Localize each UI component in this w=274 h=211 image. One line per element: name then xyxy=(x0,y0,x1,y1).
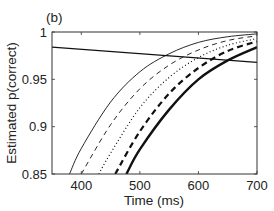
chart: (b) 400500600700 0.850.90.951 Time (ms) … xyxy=(0,0,274,211)
panel-label: (b) xyxy=(46,10,63,25)
y-tick-label: 0.9 xyxy=(29,119,47,134)
x-tick-label: 500 xyxy=(129,178,151,193)
x-tick-label: 400 xyxy=(70,178,92,193)
axes-box xyxy=(52,32,257,174)
y-tick-label: 0.85 xyxy=(22,167,47,182)
y-tick-label: 0.95 xyxy=(22,72,47,87)
x-tick-label: 600 xyxy=(188,178,210,193)
series-decreasing-line xyxy=(52,47,257,62)
series-lines xyxy=(52,34,257,174)
series-thin-dashed xyxy=(81,36,257,174)
series-dotted xyxy=(99,39,257,174)
series-thick-solid xyxy=(126,47,257,174)
x-tick-label: 700 xyxy=(246,178,268,193)
y-axis-label: Estimated p(correct) xyxy=(4,42,19,164)
x-axis-label: Time (ms) xyxy=(124,193,184,208)
y-tick-label: 1 xyxy=(40,25,47,40)
